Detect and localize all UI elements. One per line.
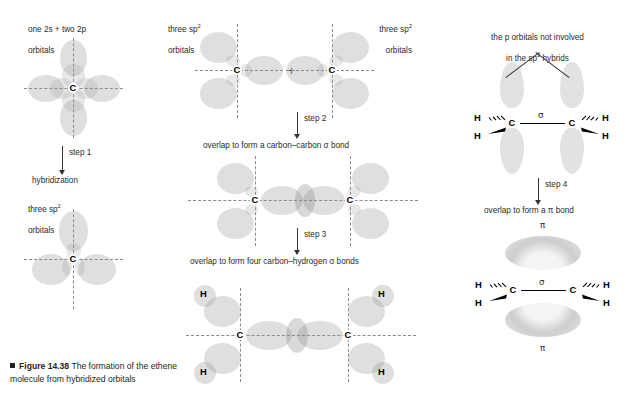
step2-name: step 2 [304, 114, 326, 123]
pi-solid-wedge-left [489, 295, 507, 302]
sigma-label-top: σ [538, 110, 543, 120]
sigma-carbon-b-label: C [345, 195, 355, 205]
sigma-overlap-region [295, 184, 315, 217]
left-bottom-label-line2: orbitals [28, 226, 54, 235]
full-carbon-a-label: C [235, 330, 245, 340]
p-orbital-left-down [500, 128, 524, 174]
pi-label-top: π [540, 220, 545, 230]
middle-right-label-line1: three sp [379, 25, 409, 34]
step2-action: overlap to form a carbon–carbon σ bond [203, 141, 349, 150]
pi-solid-wedge-right [582, 295, 600, 302]
left-top-label-line2: orbitals [28, 46, 54, 55]
left-bottom-label-sup: 2 [58, 203, 61, 209]
pi-cloud-upper [505, 236, 581, 270]
left-top-label-line1: one 2s + two 2p [28, 25, 86, 34]
step1-arrow [62, 146, 63, 170]
full-hydrogen-lower-right: H [378, 366, 385, 377]
pi-sigma-label: σ [539, 277, 544, 287]
full-hydrogen-lower-left: H [200, 366, 207, 377]
carbon-atom-label-sp2: C [68, 254, 78, 264]
pi-carbon-b: C [568, 285, 578, 295]
p-orbital-left-up [500, 62, 524, 108]
right-top-label: the p orbitals not involved in the sp2 h… [455, 22, 620, 64]
middle-left-label-line2: orbitals [168, 46, 194, 55]
pi-carbon-carbon-bond-line [521, 290, 566, 291]
pi-cloud-lower [505, 303, 581, 337]
middle-left-label: three sp2 orbitals [168, 14, 201, 56]
hashed-wedge-right [582, 116, 598, 121]
hashed-wedge-left [489, 116, 505, 121]
pi-label-bottom: π [540, 343, 545, 353]
step1-action: hybridization [32, 176, 78, 185]
p-orbital-right-up [560, 62, 584, 108]
pi-hydrogen-upper-left: H [475, 279, 482, 290]
step3-name: step 3 [304, 230, 326, 239]
full-hydrogen-upper-right: H [378, 288, 385, 299]
pi-hydrogen-upper-right: H [603, 279, 610, 290]
skeletal-carbon-b: C [567, 118, 577, 128]
pi-hashed-wedge-left [490, 283, 506, 288]
step4-name: step 4 [545, 180, 567, 189]
carbon-a-label: C [232, 65, 242, 75]
carbon-a-lobe-inner-b [226, 74, 240, 86]
left-bottom-label-line1: three sp [28, 205, 58, 214]
full-hydrogen-upper-left: H [200, 288, 207, 299]
skeletal-carbon-a: C [507, 118, 517, 128]
figure-caption: Figure 14.38 The formation of the ethene… [10, 360, 190, 385]
solid-wedge-right [581, 128, 599, 135]
sigma-lobe-a-inner-b [245, 204, 258, 215]
middle-right-label-sup: 2 [409, 23, 412, 29]
full-sigma-overlap-region [286, 318, 308, 353]
step3-arrow [297, 228, 298, 250]
skeletal-hydrogen-upper-right: H [602, 112, 609, 123]
carbon-b-label: C [327, 65, 337, 75]
carbon-carbon-bond-line [520, 123, 565, 124]
middle-left-label-line1: three sp [168, 25, 198, 34]
p-orbital-right-down [560, 128, 584, 174]
step4-action: overlap to form a π bond [484, 206, 574, 215]
step3-action: overlap to form four carbon–hydrogen σ b… [190, 257, 359, 266]
skeletal-hydrogen-lower-right: H [602, 130, 609, 141]
skeletal-hydrogen-lower-left: H [474, 130, 481, 141]
pi-hydrogen-lower-left: H [475, 297, 482, 308]
right-top-label-line1: the p orbitals not involved [491, 33, 584, 42]
step2-arrow [297, 112, 298, 134]
skeletal-hydrogen-upper-left: H [474, 112, 481, 123]
carbon-b-lobe-inner-b [329, 74, 343, 86]
caption-bullet-square [10, 363, 15, 368]
middle-right-label-line2: orbitals [386, 46, 412, 55]
left-bottom-label: three sp2 orbitals [28, 194, 61, 236]
step4-arrow [538, 178, 539, 200]
middle-left-label-sup: 2 [198, 23, 201, 29]
carbon-atom-label: C [68, 83, 78, 93]
pi-hydrogen-lower-right: H [603, 297, 610, 308]
pi-hashed-wedge-right [583, 283, 599, 288]
sigma-carbon-a-label: C [250, 195, 260, 205]
figure-number: Figure 14.38 [19, 361, 69, 371]
full-carbon-b-label: C [343, 330, 353, 340]
pi-carbon-a: C [508, 285, 518, 295]
figure-canvas: one 2s + two 2p orbitals C step 1 hybrid… [0, 0, 627, 413]
sigma-lobe-b-inner-b [348, 204, 361, 215]
step1-name: step 1 [69, 148, 91, 157]
